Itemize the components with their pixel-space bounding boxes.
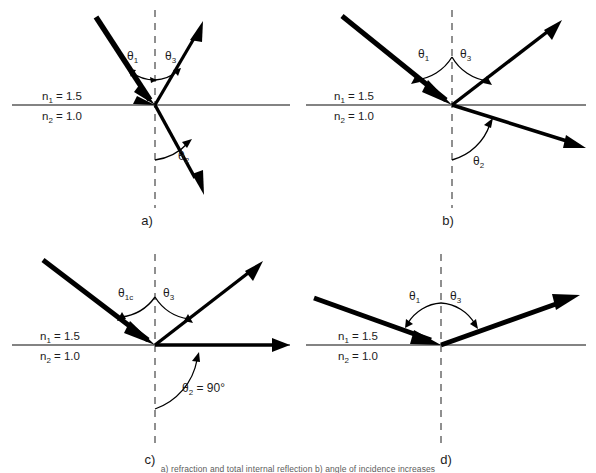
refraction-figure: n1 = 1.5 n2 = 1.0 θ1 θ3 θ2 a): [0, 0, 596, 473]
panel-a: n1 = 1.5 n2 = 1.0 θ1 θ3 θ2 a): [0, 0, 298, 236]
theta1c-label-c: θ1c: [118, 286, 133, 302]
incident-ray-a: [96, 17, 155, 105]
panel-letter-a: a): [141, 213, 153, 228]
n1-label-a: n1 = 1.5: [42, 90, 82, 105]
theta3-arc-b: [452, 57, 492, 85]
n1-label-d: n1 = 1.5: [338, 330, 378, 345]
refracted-ray-c: [155, 338, 290, 352]
n2-label-c: n2 = 1.0: [40, 350, 80, 365]
n1-label-b: n1 = 1.5: [334, 90, 374, 105]
panel-letter-b: b): [442, 213, 454, 228]
refracted-ray-b: [452, 105, 586, 148]
theta1-label-d: θ1: [409, 289, 421, 305]
reflected-ray-d: [441, 294, 580, 345]
reflected-ray-c: [155, 261, 263, 345]
theta1-label-a: θ1: [127, 49, 139, 65]
panel-b: n1 = 1.5 n2 = 1.0 θ1 θ3 θ2 b): [298, 0, 596, 236]
theta2-label-a: θ2: [178, 149, 190, 165]
theta3-arc-d: [441, 303, 478, 329]
theta3-label-b: θ3: [460, 47, 472, 63]
theta1c-arc-c: [117, 297, 155, 321]
n2-label-a: n2 = 1.0: [42, 110, 82, 125]
theta3-arc-a: [155, 68, 181, 80]
panel-c: n1 = 1.5 n2 = 1.0 θ1c θ3 θ2 = 90° c): [0, 236, 298, 473]
n2-label-b: n2 = 1.0: [334, 110, 374, 125]
n1-label-c: n1 = 1.5: [40, 330, 80, 345]
theta3-label-a: θ3: [165, 49, 177, 65]
theta1-arc-b: [411, 57, 452, 84]
theta1-label-b: θ1: [418, 47, 430, 63]
reflected-ray-a: [155, 21, 203, 105]
theta3-label-d: θ3: [450, 289, 462, 305]
theta1-arc-d: [405, 303, 441, 328]
theta2-label-c: θ2 = 90°: [182, 381, 225, 397]
theta3-label-c: θ3: [163, 286, 175, 302]
n2-label-d: n2 = 1.0: [338, 350, 378, 365]
panel-d: n1 = 1.5 n2 = 1.0 θ1 θ3 d): [298, 236, 596, 473]
figure-caption: a) refraction and total internal reflect…: [0, 464, 596, 473]
theta2-label-b: θ2: [473, 154, 485, 170]
